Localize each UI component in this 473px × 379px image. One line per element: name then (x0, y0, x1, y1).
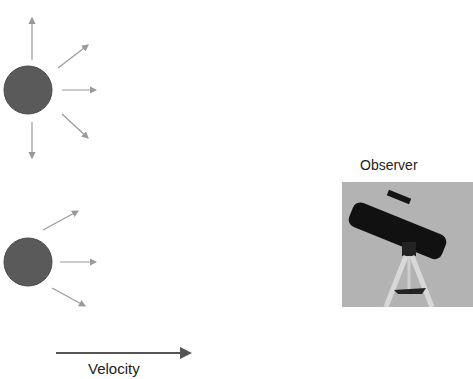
wave-arrow-upper-right (58, 45, 88, 68)
observer-telescope-photo (342, 182, 473, 307)
source-circle (4, 238, 52, 286)
moving-source (4, 211, 96, 306)
stationary-source (4, 18, 96, 158)
wave-arrow-upper-right (43, 211, 78, 230)
wave-arrow-lower-right (62, 114, 88, 138)
source-circle (4, 66, 52, 114)
observer-label: Observer (360, 157, 418, 173)
velocity-label: Velocity (88, 360, 140, 377)
wave-arrow-lower-right (52, 288, 85, 306)
telescope-icon (342, 182, 473, 307)
